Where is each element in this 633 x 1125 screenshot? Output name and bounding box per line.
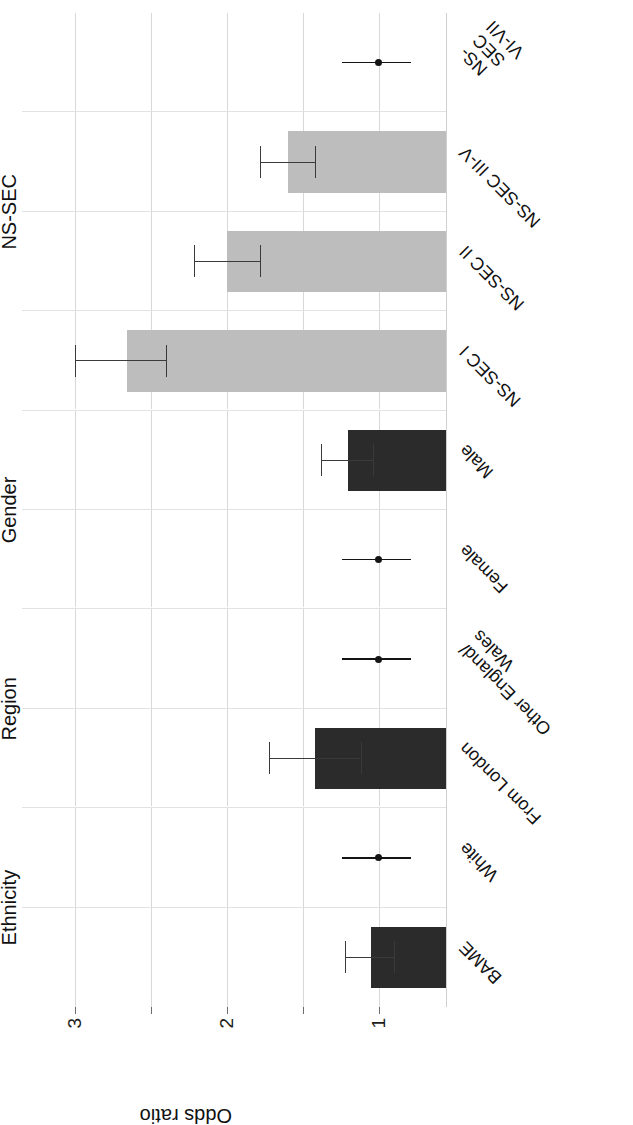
category-label: NS-SEC II	[456, 242, 528, 314]
gridline	[75, 13, 76, 1007]
gridline	[227, 13, 228, 1007]
reference-marker	[375, 854, 382, 861]
error-cap-upper	[75, 345, 76, 377]
plot-area	[22, 13, 447, 1007]
error-cap-upper	[269, 743, 270, 775]
error-bar	[269, 758, 360, 759]
error-bar	[260, 162, 315, 163]
error-cap-lower	[394, 941, 395, 973]
gridline	[151, 13, 152, 1007]
group-label: Region	[0, 677, 21, 740]
error-cap-lower	[166, 345, 167, 377]
group-label: Ethnicity	[0, 870, 21, 946]
y-tick-mark	[227, 1007, 228, 1014]
error-cap-lower	[260, 246, 261, 278]
error-cap-upper	[345, 941, 346, 973]
category-gridline	[22, 907, 447, 908]
y-tick-mark	[75, 1007, 76, 1014]
y-axis-title: Odds ratio	[140, 1104, 232, 1125]
group-label: Gender	[0, 477, 21, 544]
category-gridline	[22, 608, 447, 609]
category-label: Female	[456, 540, 512, 596]
error-cap-lower	[361, 743, 362, 775]
error-cap-lower	[315, 146, 316, 178]
y-tick-label: 2	[216, 1018, 238, 1058]
category-gridline	[22, 509, 447, 510]
category-label: NS-SEC I	[456, 341, 525, 410]
error-cap-upper	[260, 146, 261, 178]
error-bar	[75, 360, 166, 361]
category-gridline	[22, 410, 447, 411]
y-tick-mark	[379, 1007, 380, 1014]
category-gridline	[22, 310, 447, 311]
category-gridline	[22, 111, 447, 112]
y-tick-mark	[303, 1007, 304, 1014]
error-bar	[345, 957, 394, 958]
category-gridline	[22, 807, 447, 808]
category-label: NS-SEC VI-VII	[456, 16, 537, 97]
error-bar	[321, 460, 373, 461]
reference-marker	[375, 556, 382, 563]
error-cap-upper	[194, 246, 195, 278]
y-tick-label: 3	[64, 1018, 86, 1058]
error-cap-upper	[321, 444, 322, 476]
reference-marker	[375, 656, 382, 663]
axis-baseline	[446, 13, 447, 1007]
y-tick-mark	[151, 1007, 152, 1014]
category-label: NS-SEC III-V	[456, 143, 544, 231]
bar	[127, 330, 447, 392]
category-gridline	[22, 708, 447, 709]
category-label: BAME	[456, 938, 506, 988]
group-label: NS-SEC	[0, 174, 21, 250]
error-bar	[194, 261, 261, 262]
rotated-figure: Odds ratio 123 EthnicityRegionGenderNS-S…	[0, 0, 633, 1125]
category-label: White	[456, 838, 502, 884]
error-cap-lower	[373, 444, 374, 476]
category-label: From London	[456, 739, 545, 828]
chart-canvas: Odds ratio 123 EthnicityRegionGenderNS-S…	[0, 0, 633, 1125]
category-label: Other England/ Wales	[456, 626, 569, 739]
y-tick-label: 1	[368, 1018, 390, 1058]
reference-marker	[375, 59, 382, 66]
category-gridline	[22, 211, 447, 212]
category-label: Male	[456, 441, 497, 482]
